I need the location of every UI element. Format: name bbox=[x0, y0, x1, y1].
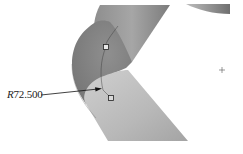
radius-dimension-label[interactable]: R72.500 bbox=[7, 88, 43, 100]
upper-bend-handle[interactable] bbox=[104, 45, 109, 50]
radius-value: 72.500 bbox=[14, 88, 43, 100]
model-canvas[interactable] bbox=[0, 0, 243, 154]
cad-viewport[interactable]: R72.500 bbox=[0, 0, 243, 154]
lower-bend-handle[interactable] bbox=[109, 96, 114, 101]
far-pipe-segment[interactable] bbox=[186, 4, 230, 14]
crosshair-icon bbox=[219, 67, 225, 73]
lower-pipe-segment[interactable] bbox=[84, 70, 188, 141]
